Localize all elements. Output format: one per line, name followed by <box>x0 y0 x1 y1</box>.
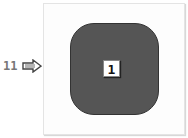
right-arrow-icon <box>22 59 42 73</box>
badge-number: 1 <box>103 60 120 77</box>
callout-number: 11 <box>3 59 17 73</box>
